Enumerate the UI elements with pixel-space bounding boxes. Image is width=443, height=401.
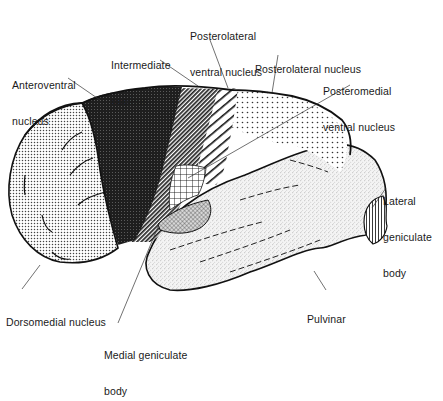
- label-line: nucleus: [111, 95, 171, 107]
- label-anteroventral-nucleus: Anteroventral nucleus: [12, 55, 76, 151]
- label-line: ventral nucleus: [190, 66, 262, 78]
- label-line: Dorsomedial nucleus: [6, 316, 106, 328]
- label-pulvinar: Pulvinar: [307, 289, 346, 349]
- label-line: Posterolateral: [190, 30, 262, 42]
- label-posteromedial-ventral-nucleus: Posteromedial ventral nucleus: [323, 61, 395, 157]
- label-line: body: [383, 267, 432, 279]
- label-line: Medial geniculate: [104, 349, 187, 361]
- label-intermediate-nucleus: Intermediate nucleus: [111, 35, 171, 131]
- label-line: body: [104, 385, 187, 397]
- label-line: ventral nucleus: [323, 121, 395, 133]
- label-line: Posteromedial: [323, 85, 395, 97]
- label-medial-geniculate-body: Medial geniculate body: [104, 325, 187, 401]
- label-line: Pulvinar: [307, 313, 346, 325]
- label-line: Anteroventral: [12, 79, 76, 91]
- label-line: Lateral: [383, 195, 432, 207]
- label-line: nucleus: [12, 115, 76, 127]
- label-posterolateral-ventral-nucleus: Posterolateral ventral nucleus: [190, 6, 262, 102]
- label-dorsomedial-nucleus: Dorsomedial nucleus: [6, 292, 106, 352]
- leader-pulvinar: [314, 271, 326, 290]
- label-line: geniculate: [383, 231, 432, 243]
- label-lateral-geniculate-body: Lateral geniculate body: [383, 171, 432, 303]
- leader-dorsomedial: [22, 265, 40, 289]
- label-line: Intermediate: [111, 59, 171, 71]
